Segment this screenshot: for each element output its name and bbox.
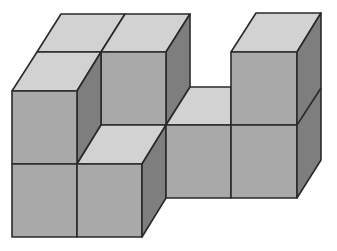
cube-face-back-mid-front [101,52,166,125]
cube-face-front-left-lower-front [12,164,77,237]
cube-face-front-mid-front [77,164,142,237]
cube-face-right-tower-lower-front [231,125,297,198]
isometric-cubes-figure [0,0,337,251]
cube-diagram [0,0,337,251]
cube-face-right-tower-upper-front [231,52,297,125]
cube-face-front-left-upper-front [12,91,77,164]
cube-face-right-low-front-1 [166,125,231,198]
